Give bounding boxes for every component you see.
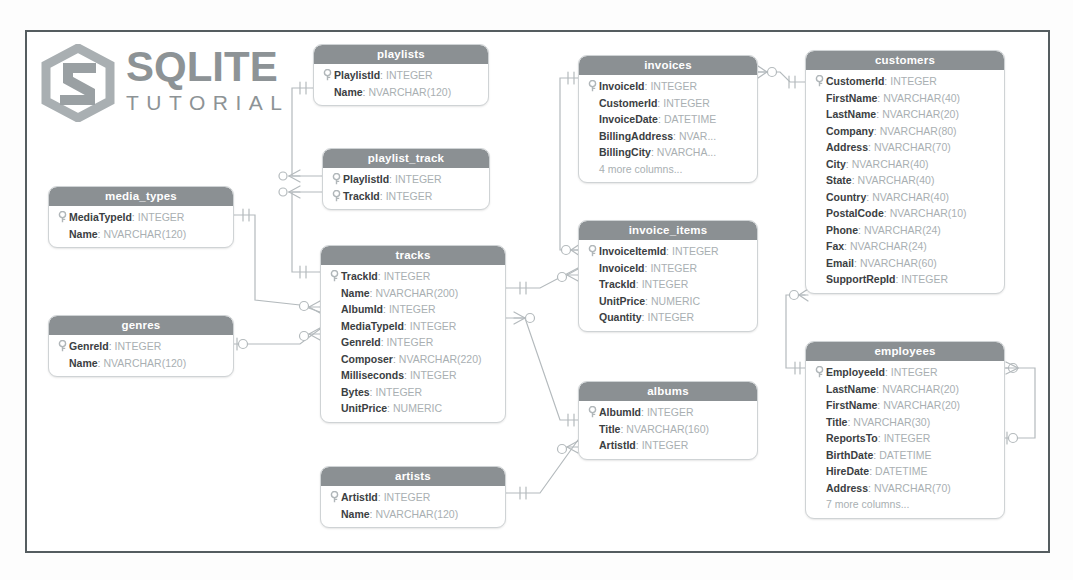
column-row: Address:NVARCHAR(70) — [806, 480, 1004, 497]
column-name: FirstName — [826, 399, 877, 411]
column-name: Country — [826, 191, 866, 203]
column-name: MediaTypeId — [69, 211, 132, 223]
column-indent-spacer — [585, 261, 599, 274]
column-type: INTEGER — [898, 273, 948, 285]
column-row: MediaTypeId:INTEGER — [321, 318, 505, 335]
column-type: INTEGER — [647, 262, 697, 274]
column-name: InvoiceItemId — [599, 245, 666, 257]
table-body-albums: AlbumId:INTEGERTitle:NVARCHAR(160)Artist… — [579, 401, 757, 459]
column-name: Name — [69, 357, 98, 369]
column-name: City — [826, 158, 846, 170]
column-name: AlbumId — [341, 303, 383, 315]
table-body-employees: EmployeeId:INTEGERLastName:NVARCHAR(20)F… — [806, 361, 1004, 518]
column-indent-spacer — [812, 124, 826, 137]
table-body-invoice_items: InvoiceItemId:INTEGERInvoiceId:INTEGERTr… — [579, 240, 757, 331]
column-indent-spacer — [812, 240, 826, 253]
column-name: InvoiceId — [599, 80, 645, 92]
table-header-genres: genres — [49, 316, 233, 335]
table-playlists[interactable]: playlistsPlaylistId:INTEGERName:NVARCHAR… — [313, 44, 489, 106]
table-body-playlist_track: PlaylistId:INTEGERTrackId:INTEGER — [323, 168, 489, 209]
column-row: MediaTypeId:INTEGER — [49, 209, 233, 226]
table-playlist_track[interactable]: playlist_trackPlaylistId:INTEGERTrackId:… — [322, 148, 490, 210]
column-name: Composer — [341, 353, 393, 365]
column-row: Name:NVARCHAR(200) — [321, 285, 505, 302]
primary-key-icon — [585, 406, 599, 419]
column-name: MediaTypeId — [341, 320, 404, 332]
column-row: Title:NVARCHAR(30) — [806, 414, 1004, 431]
column-indent-spacer — [585, 422, 599, 435]
column-name: Name — [341, 508, 370, 520]
column-name: Fax — [826, 240, 844, 252]
table-header-tracks: tracks — [321, 246, 505, 265]
more-columns-label[interactable]: 7 more columns... — [806, 496, 1004, 513]
column-name: HireDate — [826, 465, 869, 477]
table-body-tracks: TrackId:INTEGERName:NVARCHAR(200)AlbumId… — [321, 265, 505, 422]
table-body-playlists: PlaylistId:INTEGERName:NVARCHAR(120) — [314, 64, 488, 105]
column-row: InvoiceId:INTEGER — [579, 78, 757, 95]
column-indent-spacer — [812, 432, 826, 445]
column-indent-spacer — [812, 415, 826, 428]
more-columns-label[interactable]: 4 more columns... — [579, 161, 757, 178]
column-type: INTEGER — [135, 211, 185, 223]
column-type: NVARCHAR(200) — [373, 287, 459, 299]
column-row: State:NVARCHAR(40) — [806, 172, 1004, 189]
column-indent-spacer — [327, 319, 341, 332]
column-name: InvoiceDate — [599, 113, 658, 125]
column-row: BillingAddress:NVAR... — [579, 128, 757, 145]
column-row: Address:NVARCHAR(70) — [806, 139, 1004, 156]
table-employees[interactable]: employeesEmployeeId:INTEGERLastName:NVAR… — [805, 341, 1005, 519]
column-type: INTEGER — [887, 75, 937, 87]
column-type: DATETIME — [661, 113, 716, 125]
column-name: AlbumId — [599, 406, 641, 418]
column-indent-spacer — [812, 157, 826, 170]
column-name: Title — [826, 416, 847, 428]
table-header-media_types: media_types — [49, 187, 233, 206]
column-row: InvoiceId:INTEGER — [579, 260, 757, 277]
column-type: INTEGER — [888, 366, 938, 378]
table-artists[interactable]: artistsArtistId:INTEGERName:NVARCHAR(120… — [320, 466, 506, 528]
column-name: CustomerId — [599, 97, 657, 109]
column-type: NVAR... — [676, 130, 716, 142]
column-type: NVARCHAR(160) — [623, 423, 709, 435]
column-indent-spacer — [585, 96, 599, 109]
column-name: PostalCode — [826, 207, 884, 219]
table-albums[interactable]: albumsAlbumId:INTEGERTitle:NVARCHAR(160)… — [578, 381, 758, 460]
column-type: NVARCHAR(20) — [879, 108, 959, 120]
column-row: GenreId:INTEGER — [321, 334, 505, 351]
column-row: Quantity:INTEGER — [579, 309, 757, 326]
hexagon-s-logo-icon — [38, 44, 118, 122]
column-indent-spacer — [55, 227, 69, 240]
column-name: ArtistId — [341, 491, 378, 503]
table-body-media_types: MediaTypeId:INTEGERName:NVARCHAR(120) — [49, 206, 233, 247]
column-row: PostalCode:NVARCHAR(10) — [806, 205, 1004, 222]
column-row: GenreId:INTEGER — [49, 338, 233, 355]
table-body-genres: GenreId:INTEGERName:NVARCHAR(120) — [49, 335, 233, 376]
primary-key-icon — [585, 80, 599, 93]
table-invoices[interactable]: invoicesInvoiceId:INTEGERCustomerId:INTE… — [578, 55, 758, 183]
table-customers[interactable]: customersCustomerId:INTEGERFirstName:NVA… — [805, 50, 1005, 294]
column-indent-spacer — [327, 303, 341, 316]
table-tracks[interactable]: tracksTrackId:INTEGERName:NVARCHAR(200)A… — [320, 245, 506, 423]
column-type: INTEGER — [381, 491, 431, 503]
column-indent-spacer — [327, 369, 341, 382]
column-type: DATETIME — [872, 465, 927, 477]
column-indent-spacer — [585, 146, 599, 159]
column-type: NVARCHAR(120) — [373, 508, 459, 520]
column-row: InvoiceItemId:INTEGER — [579, 243, 757, 260]
primary-key-icon — [329, 173, 343, 186]
table-media_types[interactable]: media_typesMediaTypeId:INTEGERName:NVARC… — [48, 186, 234, 248]
column-type: INTEGER — [645, 311, 695, 323]
table-invoice_items[interactable]: invoice_itemsInvoiceItemId:INTEGERInvoic… — [578, 220, 758, 332]
primary-key-icon — [55, 211, 69, 224]
column-indent-spacer — [812, 256, 826, 269]
column-indent-spacer — [55, 356, 69, 369]
column-type: NVARCHAR(120) — [101, 228, 187, 240]
column-name: Address — [826, 482, 868, 494]
column-name: Address — [826, 141, 868, 153]
column-name: Phone — [826, 224, 858, 236]
column-type: NUMERIC — [648, 295, 700, 307]
column-row: PlaylistId:INTEGER — [323, 171, 489, 188]
table-body-invoices: InvoiceId:INTEGERCustomerId:INTEGERInvoi… — [579, 75, 757, 182]
table-genres[interactable]: genresGenreId:INTEGERName:NVARCHAR(120) — [48, 315, 234, 377]
column-row: Name:NVARCHAR(120) — [314, 84, 488, 101]
